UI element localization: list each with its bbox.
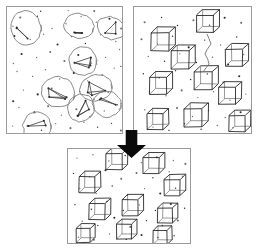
scatter-point	[67, 10, 68, 11]
scatter-point	[97, 225, 98, 226]
scatter-point	[29, 39, 30, 40]
scatter-point	[93, 10, 95, 12]
scatter-point	[155, 210, 156, 211]
scatter-point	[111, 123, 112, 124]
scatter-point	[41, 130, 42, 131]
annotation-vertex	[43, 120, 45, 122]
scatter-point	[229, 100, 230, 101]
scatter-point	[19, 16, 21, 18]
scatter-point	[245, 93, 246, 94]
scatter-point	[63, 60, 65, 62]
annotation-vertex	[115, 104, 117, 106]
scatter-point	[236, 36, 237, 37]
annotation-vertex	[16, 27, 18, 29]
scatter-point	[175, 187, 176, 188]
scatter-point	[177, 25, 178, 26]
annotation-vertex	[48, 96, 50, 98]
scatter-point	[65, 23, 66, 24]
annotation-vertex	[88, 108, 90, 110]
scatter-point	[152, 177, 153, 178]
scatter-point	[75, 108, 77, 110]
scatter-point	[140, 38, 142, 40]
scatter-point	[177, 219, 179, 221]
scatter-point	[51, 28, 52, 29]
scatter-point	[172, 36, 173, 37]
scatter-point	[47, 105, 49, 107]
scatter-point	[225, 117, 226, 118]
scatter-point	[135, 172, 137, 174]
annotation-vertex	[91, 94, 93, 96]
scatter-point	[49, 51, 51, 53]
scatter-point	[55, 123, 56, 124]
annotation-vertex	[64, 98, 66, 100]
scatter-point	[43, 34, 44, 35]
scatter-point	[113, 217, 115, 219]
annotation-vertex	[89, 64, 91, 66]
scatter-point	[148, 56, 149, 57]
annotation-vertex	[100, 97, 102, 99]
annotation-vertex	[73, 31, 75, 33]
annotation-vertex	[27, 37, 29, 39]
scatter-point	[164, 61, 165, 62]
scatter-point	[80, 16, 81, 17]
scatter-point	[12, 25, 13, 26]
scatter-point	[120, 66, 121, 67]
annotation-vertex	[88, 67, 90, 69]
scatter-point	[67, 135, 68, 136]
scatter-point	[73, 173, 74, 174]
scatter-point	[13, 63, 14, 64]
scatter-point	[129, 226, 131, 228]
scatter-point	[213, 91, 214, 92]
scatter-point	[56, 43, 58, 45]
scatter-point	[123, 210, 124, 211]
scatter-point	[144, 109, 145, 110]
scatter-point	[120, 178, 122, 180]
scatter-point	[192, 19, 194, 21]
scatter-point	[144, 188, 145, 189]
scatter-point	[212, 57, 213, 58]
scatter-point	[113, 67, 114, 68]
scatter-point	[91, 62, 92, 63]
annotation-vertex	[115, 21, 117, 23]
scatter-point	[120, 129, 122, 131]
scatter-point	[12, 125, 13, 126]
panel-bottom	[68, 148, 191, 244]
scatter-point	[18, 107, 19, 108]
scatter-point	[87, 80, 88, 81]
scatter-point	[69, 127, 71, 129]
scatter-point	[119, 49, 120, 50]
scatter-point	[97, 126, 98, 127]
scatter-point	[168, 130, 169, 131]
scatter-point	[109, 233, 110, 234]
scatter-point	[112, 185, 113, 186]
scatter-point	[95, 193, 96, 194]
scatter-point	[165, 95, 166, 96]
scatter-point	[176, 107, 178, 109]
panel-frame-top-left	[7, 7, 123, 134]
scatter-point	[40, 11, 41, 12]
scatter-point	[190, 79, 191, 80]
scatter-point	[196, 62, 197, 63]
scatter-point	[59, 78, 60, 79]
scatter-point	[181, 89, 183, 91]
annotation-vertex	[87, 91, 89, 93]
scatter-point	[220, 44, 221, 45]
panel-top-left	[7, 7, 126, 141]
scatter-point	[188, 46, 190, 48]
scatter-point	[115, 41, 116, 42]
scatter-point	[120, 27, 122, 29]
scatter-point	[21, 53, 23, 55]
annotation-vertex	[45, 124, 47, 126]
annotation-vertex	[66, 96, 68, 98]
scatter-point	[76, 157, 77, 158]
annotation-vertex	[88, 81, 90, 83]
annotation-vertex	[90, 56, 92, 58]
scatter-point	[82, 220, 83, 221]
scatter-point	[240, 22, 242, 24]
scatter-point	[243, 54, 244, 55]
scatter-point	[91, 209, 92, 210]
scatter-point	[23, 89, 24, 90]
scatter-point	[16, 71, 17, 72]
scatter-point	[40, 136, 41, 137]
scatter-point	[36, 57, 37, 58]
